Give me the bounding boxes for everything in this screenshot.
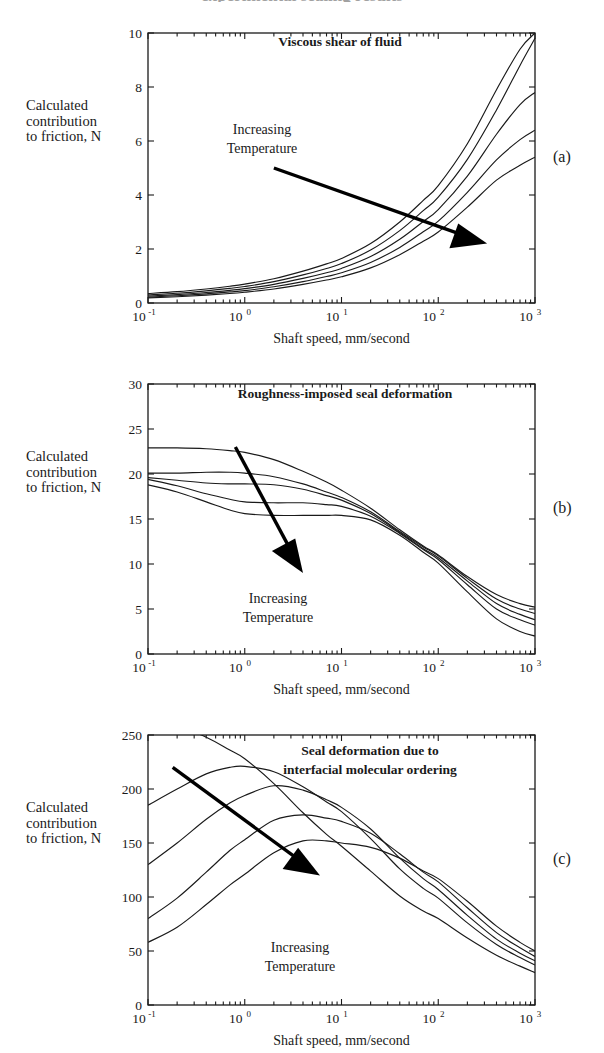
y-axis-label-a: Calculated contribution to friction, N [26, 98, 101, 145]
axes-box [148, 33, 535, 303]
svg-text:3: 3 [537, 658, 542, 668]
svg-text:0: 0 [247, 658, 252, 668]
panel-letter-c: (c) [553, 850, 571, 868]
panel-letter-a: (a) [553, 148, 571, 166]
y-tick-label: 15 [129, 512, 143, 527]
annotation-line-1: Increasing [249, 591, 307, 606]
increasing-temperature-arrow-line [173, 767, 301, 861]
x-tick-label: 101 [326, 658, 348, 675]
y-tick-label: 25 [129, 422, 143, 437]
data-curve [148, 485, 535, 636]
svg-text:1: 1 [343, 658, 348, 668]
svg-text:2: 2 [440, 1009, 445, 1019]
data-curve [148, 130, 535, 297]
increasing-temperature-arrow-line [274, 168, 465, 236]
x-tick-label: 103 [519, 1009, 542, 1026]
svg-text:0: 0 [247, 1009, 252, 1019]
chart-svg-c: 10-1100101102103050100150200250Seal defo… [0, 702, 604, 1053]
svg-text:10: 10 [229, 309, 243, 324]
annotation-line-1: Increasing [233, 122, 291, 137]
svg-text:10: 10 [519, 660, 533, 675]
y-tick-label: 30 [129, 377, 143, 392]
y-axis-label-b: Calculated contribution to friction, N [26, 449, 101, 496]
x-tick-label: 102 [423, 658, 445, 675]
y-tick-label: 10 [129, 557, 143, 572]
chart-title: Seal deformation due to [301, 743, 439, 758]
y-tick-label: 250 [122, 728, 143, 743]
chart-title: Roughness-imposed seal deformation [238, 386, 453, 401]
data-curve [148, 766, 535, 965]
annotation-line-2: Temperature [227, 141, 298, 156]
y-tick-label: 0 [135, 998, 142, 1013]
chart-title: Viscous shear of fluid [278, 34, 402, 49]
increasing-temperature-arrowhead [449, 223, 487, 248]
svg-text:10: 10 [132, 309, 146, 324]
x-tick-label: 100 [229, 1009, 252, 1026]
annotation-line-2: Temperature [243, 610, 314, 625]
svg-text:10: 10 [519, 309, 533, 324]
y-tick-label: 10 [129, 26, 143, 41]
chart-panel-b: Calculated contribution to friction, N (… [0, 351, 604, 702]
y-tick-label: 20 [129, 467, 143, 482]
svg-text:-1: -1 [148, 307, 156, 317]
data-curve [148, 92, 535, 296]
y-tick-label: 2 [135, 242, 142, 257]
data-curve [148, 38, 535, 295]
svg-text:10: 10 [132, 660, 146, 675]
x-tick-label: 102 [423, 1009, 445, 1026]
svg-text:10: 10 [326, 309, 340, 324]
svg-text:10: 10 [229, 660, 243, 675]
svg-text:10: 10 [423, 1011, 437, 1026]
svg-text:10: 10 [229, 1011, 243, 1026]
x-tick-label: 103 [519, 307, 542, 324]
data-curve [148, 478, 535, 620]
x-axis-label: Shaft speed, mm/second [273, 1033, 409, 1048]
x-tick-label: 103 [519, 658, 542, 675]
data-curve [148, 815, 535, 957]
y-tick-label: 5 [135, 602, 142, 617]
svg-text:1: 1 [343, 307, 348, 317]
svg-text:10: 10 [326, 660, 340, 675]
svg-text:10: 10 [132, 1011, 146, 1026]
chart-panel-c: Calculated contribution to friction, N (… [0, 702, 604, 1053]
svg-text:0: 0 [247, 307, 252, 317]
x-axis-label: Shaft speed, mm/second [273, 331, 409, 346]
y-tick-label: 200 [122, 782, 143, 797]
x-tick-label: 102 [423, 307, 445, 324]
svg-text:2: 2 [440, 307, 445, 317]
x-tick-label: 101 [326, 1009, 348, 1026]
svg-text:-1: -1 [148, 1009, 156, 1019]
svg-text:2: 2 [440, 658, 445, 668]
y-tick-label: 0 [135, 296, 142, 311]
curves-group [148, 722, 535, 973]
x-tick-label: 101 [326, 307, 348, 324]
y-tick-label: 50 [129, 944, 143, 959]
curves-group [148, 33, 535, 298]
x-axis-label: Shaft speed, mm/second [273, 682, 409, 697]
svg-text:3: 3 [537, 1009, 542, 1019]
x-tick-label: 100 [229, 658, 252, 675]
annotation-line-1: Increasing [271, 940, 329, 955]
svg-text:10: 10 [519, 1011, 533, 1026]
svg-text:10: 10 [423, 309, 437, 324]
data-curve [148, 157, 535, 298]
curves-group [148, 448, 535, 636]
data-curve [148, 840, 535, 951]
y-tick-label: 150 [122, 836, 143, 851]
y-tick-label: 6 [135, 134, 142, 149]
chart-svg-b: 10-1100101102103051015202530Roughness-im… [0, 351, 604, 702]
annotation-line-2: Temperature [265, 959, 336, 974]
x-tick-label: 100 [229, 307, 252, 324]
svg-text:-1: -1 [148, 658, 156, 668]
data-curve [148, 722, 535, 973]
y-tick-label: 4 [135, 188, 142, 203]
y-tick-label: 100 [122, 890, 143, 905]
svg-text:10: 10 [326, 1011, 340, 1026]
axes-box [148, 384, 535, 654]
increasing-temperature-arrowhead [272, 539, 303, 573]
svg-text:3: 3 [537, 307, 542, 317]
chart-svg-a: 10-11001011021030246810Viscous shear of … [0, 0, 604, 351]
y-tick-label: 8 [135, 80, 142, 95]
figure-page: experimental sealing results Calculated … [0, 0, 604, 1053]
svg-text:1: 1 [343, 1009, 348, 1019]
